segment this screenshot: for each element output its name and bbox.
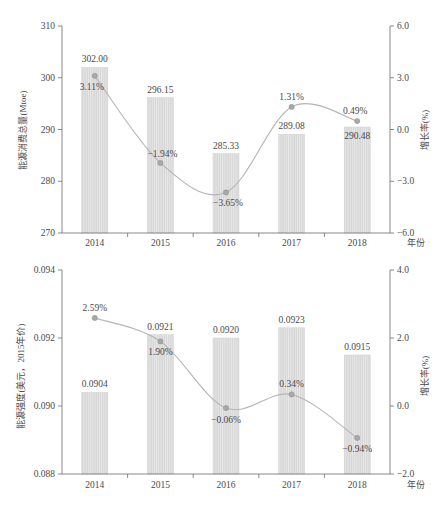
chart-svg-energy-consumption: 302.00296.15285.33289.08290.483.11%−1.94… <box>0 0 442 256</box>
left-tick-label: 0.092 <box>34 333 56 343</box>
bar-value-label-2018: 290.48 <box>344 131 370 141</box>
bar-value-label-2017: 0.0923 <box>279 315 305 325</box>
growth-rate-marker-2018 <box>355 435 360 440</box>
category-label-2014: 2014 <box>85 480 104 490</box>
category-label-2016: 2016 <box>217 238 236 248</box>
y-axis-title: 能源强度(美元，2015年价) <box>15 324 26 429</box>
left-tick-label: 280 <box>41 176 56 186</box>
right-tick-label: −2.0 <box>397 469 414 479</box>
bar-series <box>82 328 370 474</box>
left-tick-label: 300 <box>41 73 56 83</box>
left-axis-ticks: 0.0880.0900.0920.094 <box>34 265 62 479</box>
growth-rate-label-2017: 0.34% <box>279 379 304 389</box>
right-tick-label: 6.0 <box>397 21 409 31</box>
growth-rate-marker-2015 <box>158 160 163 165</box>
growth-rate-label-2015: 1.90% <box>148 347 173 357</box>
category-label-2018: 2018 <box>348 480 367 490</box>
bar-2017 <box>279 328 305 474</box>
right-tick-label: 0.0 <box>397 125 409 135</box>
x-axis-title: 年份 <box>407 237 425 248</box>
bar-2018 <box>344 127 370 233</box>
secondary-y-axis-title: 增长率(%) <box>419 356 430 397</box>
bar-value-label-2014: 0.0904 <box>82 379 108 389</box>
growth-rate-marker-2018 <box>355 118 360 123</box>
right-tick-label: 0.0 <box>397 401 409 411</box>
bar-value-labels: 302.00296.15285.33289.08290.48 <box>82 54 371 150</box>
category-label-2015: 2015 <box>151 480 170 490</box>
chart-svg-energy-intensity: 0.09040.09210.09200.09230.09152.59%1.90%… <box>0 256 442 513</box>
growth-rate-label-2018: 0.49% <box>343 106 368 116</box>
growth-rate-marker-2014 <box>92 73 97 78</box>
category-label-2016: 2016 <box>217 480 236 490</box>
category-axis: 20142015201620172018 <box>85 233 367 248</box>
bar-value-label-2016: 285.33 <box>213 141 239 151</box>
bar-value-label-2015: 0.0921 <box>147 322 173 332</box>
bar-value-label-2015: 296.15 <box>147 85 173 95</box>
secondary-y-axis-title: 增长率(%) <box>419 110 430 151</box>
right-axis-ticks: −2.00.02.04.0 <box>390 265 414 479</box>
left-tick-label: 310 <box>41 21 56 31</box>
figure-container: 302.00296.15285.33289.08290.483.11%−1.94… <box>0 0 442 513</box>
left-tick-label: 270 <box>41 228 56 238</box>
growth-rate-marker-2017 <box>289 104 294 109</box>
x-axis-title: 年份 <box>407 479 425 490</box>
left-tick-label: 0.090 <box>34 401 56 411</box>
chart-panel-energy-intensity: 0.09040.09210.09200.09230.09152.59%1.90%… <box>0 256 442 513</box>
category-label-2014: 2014 <box>85 238 104 248</box>
growth-rate-label-2017: 1.31% <box>279 92 304 102</box>
growth-rate-label-2014: 2.59% <box>83 303 108 313</box>
bar-2014 <box>82 67 108 233</box>
category-label-2018: 2018 <box>348 238 367 248</box>
right-tick-label: −3.0 <box>397 176 414 186</box>
chart-panel-energy-consumption: 302.00296.15285.33289.08290.483.11%−1.94… <box>0 0 442 256</box>
bar-value-label-2017: 289.08 <box>279 121 305 131</box>
growth-rate-label-2015: −1.94% <box>147 149 177 159</box>
right-axis-ticks: −6.0−3.00.03.06.0 <box>390 21 414 238</box>
growth-rate-label-2014: 3.11% <box>80 82 104 92</box>
growth-rate-marker-2016 <box>223 405 228 410</box>
bar-2014 <box>82 392 108 474</box>
growth-rate-marker-2017 <box>289 392 294 397</box>
bar-2018 <box>344 355 370 474</box>
growth-rate-marker-2016 <box>223 190 228 195</box>
growth-rate-marker-2014 <box>92 315 97 320</box>
y-axis-title: 能源消费总量(Mtoe) <box>17 91 28 170</box>
growth-rate-marker-2015 <box>158 339 163 344</box>
growth-rate-label-2016: −0.06% <box>211 415 241 425</box>
left-axis-ticks: 270280290300310 <box>41 21 62 238</box>
left-tick-label: 290 <box>41 125 56 135</box>
right-tick-label: −6.0 <box>397 228 414 238</box>
growth-rate-label-2018: −0.94% <box>342 444 372 454</box>
category-label-2015: 2015 <box>151 238 170 248</box>
left-tick-label: 0.094 <box>34 265 56 275</box>
bar-value-label-2016: 0.0920 <box>213 325 239 335</box>
right-tick-label: 4.0 <box>397 265 409 275</box>
category-axis: 20142015201620172018 <box>85 474 367 490</box>
growth-rate-label-2016: −3.65% <box>213 198 243 208</box>
category-label-2017: 2017 <box>282 480 301 490</box>
right-tick-label: 2.0 <box>397 333 409 343</box>
right-tick-label: 3.0 <box>397 73 409 83</box>
bar-value-label-2014: 302.00 <box>82 54 108 64</box>
left-tick-label: 0.088 <box>34 469 56 479</box>
bar-value-label-2018: 0.0915 <box>344 342 370 352</box>
category-label-2017: 2017 <box>282 238 301 248</box>
bar-2017 <box>279 134 305 233</box>
